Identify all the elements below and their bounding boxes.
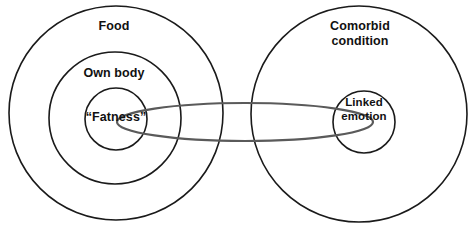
label-fatness: “Fatness” bbox=[79, 110, 153, 125]
label-comorbid-condition: Comorbid condition bbox=[308, 19, 412, 49]
label-food: Food bbox=[66, 19, 162, 34]
label-linked-emotion: Linked emotion bbox=[332, 96, 396, 123]
label-own-body: Own body bbox=[62, 66, 166, 81]
diagram-root: Food Own body “Fatness” Comorbid conditi… bbox=[0, 0, 475, 236]
